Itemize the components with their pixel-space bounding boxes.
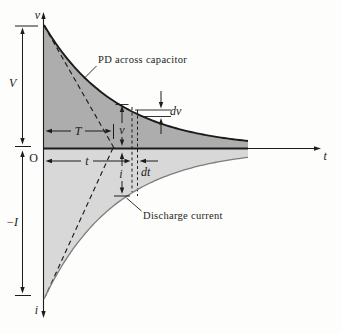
x-axis-label: t — [324, 149, 328, 163]
capacitor-discharge-figure: v i t O V −I T t v i dv dt PD across cap… — [0, 0, 341, 334]
V-measurement-arrow — [15, 26, 38, 147]
origin-label: O — [29, 151, 38, 165]
discharge-annotation-leader — [127, 198, 142, 211]
initial-pd-label: V — [9, 76, 18, 90]
y-axis-bottom-arrowhead — [41, 311, 45, 318]
I-up-arrowhead — [20, 151, 24, 158]
y-axis-top-arrowhead — [41, 12, 45, 19]
pd-annotation-leader — [84, 66, 97, 79]
pd-at-t-label: v — [119, 123, 125, 137]
dt-label: dt — [141, 165, 151, 179]
V-down-arrowhead — [20, 138, 24, 145]
initial-current-label: −I — [6, 215, 19, 229]
dv-down-arrowhead — [159, 102, 163, 109]
V-up-arrowhead — [20, 28, 24, 35]
x-axis-arrowhead — [314, 146, 321, 150]
discharge-curve-annotation: Discharge current — [143, 210, 223, 221]
dv-up-arrowhead — [159, 118, 163, 125]
current-at-t-label: i — [119, 167, 122, 181]
y-axis-top-label: v — [35, 8, 41, 22]
pd-curve-annotation: PD across capacitor — [98, 54, 187, 65]
y-axis-bottom-label: i — [35, 303, 38, 317]
I-down-arrowhead — [20, 287, 24, 294]
dv-label: dv — [170, 104, 182, 118]
